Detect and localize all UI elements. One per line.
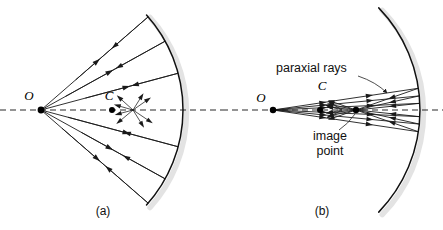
stray-ray-arrowhead [325,105,332,109]
panel-a: OC(a) [0,15,222,218]
paraxial-incident-arrowhead [366,99,373,104]
paraxial-reflected-arrowhead [389,99,396,103]
image-point-label-line1: image [313,129,347,143]
center-label-a: C [105,88,114,103]
caustic-ray-arrowhead [115,111,122,115]
caustic-ray-arrowhead [146,118,153,124]
figure-root: OC(a) OCparaxial raysimagepoint(b) [0,0,443,230]
panel-caption-a: (a) [96,204,111,218]
paraxial-incident-arrowhead [366,122,373,127]
reflected-ray-arrowhead [116,63,124,69]
paraxial-rays-label: paraxial rays [276,61,347,75]
caustic-ray-arrowhead [114,104,121,108]
reflected-ray [62,128,148,203]
paraxial-reflected-ray [330,103,420,112]
image-point-dot-b [353,107,359,113]
reflected-ray-arrowhead [132,82,140,87]
panel-caption-b: (b) [315,204,330,218]
source-label-a: O [24,88,34,103]
caustic-ray-arrowhead [144,97,151,103]
paraxial-incident-arrowhead [366,117,373,122]
caustic-ray-arrowhead [139,121,145,128]
source-label-b: O [256,90,266,105]
center-of-curvature-point-a [109,107,115,113]
reflected-ray [65,41,165,96]
panel-b: OCparaxial raysimagepoint(b) [222,8,443,218]
source-point-a [38,107,45,114]
reflected-ray-arrowhead [123,155,131,161]
paraxial-reflected-arrowhead [389,117,396,121]
center-label-b: C [318,78,327,93]
caustic-arrows-a [114,93,153,128]
paraxial-reflected-arrowhead [388,94,395,98]
caustic-ray-arrowhead [138,93,144,100]
reflected-ray [68,117,178,147]
ray-diagram-svg: OC(a) OCparaxial raysimagepoint(b) [0,0,443,230]
paraxial-reflected-arrowhead [388,121,395,125]
source-point-b [270,107,276,113]
center-of-curvature-point-b [317,107,323,113]
paraxial-rays-leader [358,76,387,93]
paraxial-incident-arrowhead [366,94,373,99]
paraxial-reflected-ray [330,107,420,116]
image-point-label-line2: point [316,144,344,158]
